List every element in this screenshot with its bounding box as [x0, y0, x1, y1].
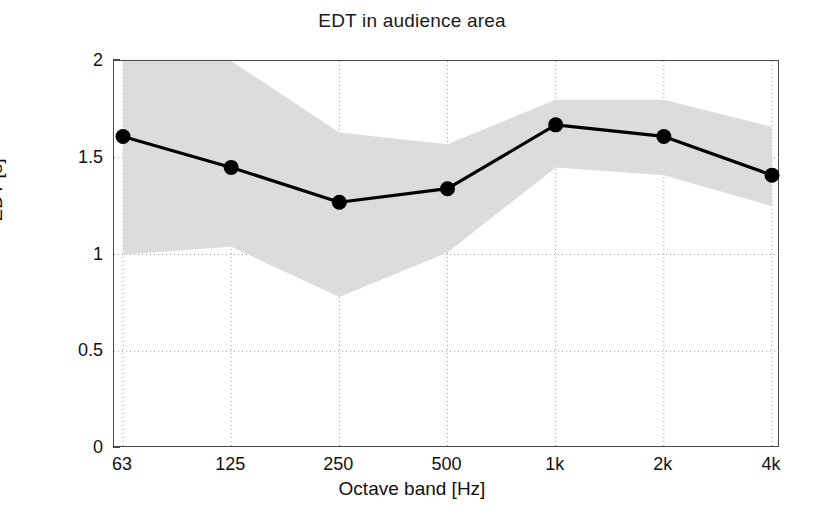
x-tick-label: 4k	[736, 454, 806, 475]
plot-area	[113, 60, 779, 447]
x-tick-label: 63	[87, 454, 157, 475]
y-tick-label: 2	[43, 50, 103, 71]
x-axis-label: Octave band [Hz]	[0, 478, 824, 500]
x-tick-label: 1k	[520, 454, 590, 475]
y-tick-label: 1	[43, 243, 103, 264]
x-tick-label: 125	[195, 454, 265, 475]
x-tick-label: 250	[303, 454, 373, 475]
chart-title: EDT in audience area	[0, 10, 824, 32]
x-tick-label: 500	[412, 454, 482, 475]
chart-svg	[114, 61, 780, 448]
figure-container: EDT in audience area EDT [s] 00.511.52 6…	[0, 0, 824, 516]
x-tick-label: 2k	[628, 454, 698, 475]
y-axis-label: EDT [s]	[0, 120, 7, 260]
y-tick-label: 0.5	[43, 340, 103, 361]
y-tick-label: 1.5	[43, 146, 103, 167]
